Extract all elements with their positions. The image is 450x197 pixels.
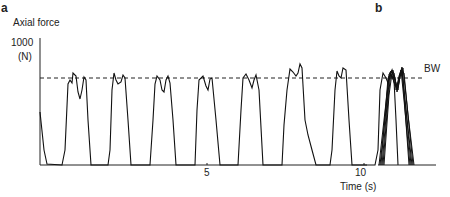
overlaid-traces-b xyxy=(379,67,414,165)
chart-canvas xyxy=(0,0,450,197)
force-trace-a xyxy=(40,64,398,165)
